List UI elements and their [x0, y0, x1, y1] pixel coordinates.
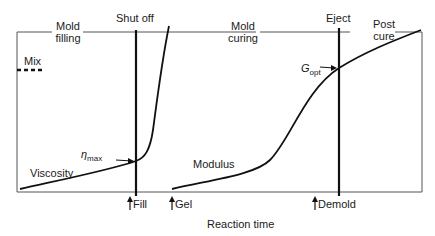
fill-label: Fill — [133, 198, 147, 210]
modulus-label: Modulus — [193, 158, 235, 170]
g-opt-label: Gopt — [301, 62, 321, 79]
viscosity-label: Viscosity — [30, 167, 73, 179]
gel-label: Gel — [175, 198, 192, 210]
shut-off-label: Shut off — [116, 12, 154, 24]
mold-curing-label: Moldcuring — [226, 20, 260, 44]
eta-max-label: ηmax — [81, 148, 102, 165]
post-cure-label: Postcure — [370, 18, 398, 42]
demold-label: Demold — [318, 198, 356, 210]
eject-label: Eject — [326, 12, 350, 24]
x-axis-label: Reaction time — [207, 218, 274, 230]
mold-filling-label: Moldfilling — [52, 20, 84, 44]
mix-label: Mix — [24, 55, 41, 67]
